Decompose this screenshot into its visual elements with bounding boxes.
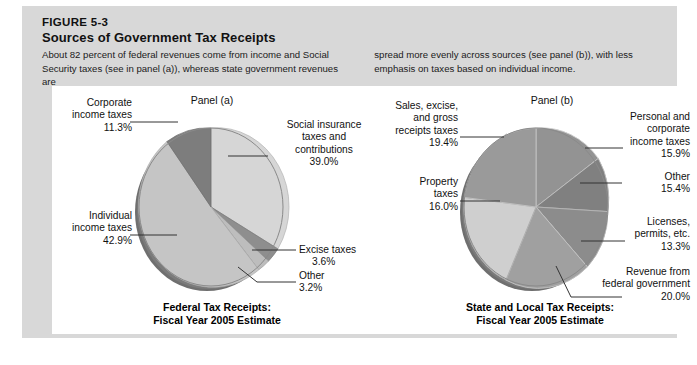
- panel-b-label-property: Property taxes 16.0%: [374, 176, 458, 213]
- intro-text-right: spread more evenly across sources (see p…: [374, 48, 667, 75]
- panel-b-other-name: Other: [608, 171, 690, 183]
- panel-b-personal-pct: 15.9%: [608, 148, 690, 160]
- panel-b-licenses-name-1: Licenses,: [608, 216, 690, 228]
- panel-b-sales-pct: 19.4%: [364, 137, 458, 149]
- panel-b-federal-name-1: Revenue from: [580, 266, 690, 278]
- panel-b-label-personal: Personal and corporate income taxes 15.9…: [608, 111, 690, 161]
- panel-b-caption-line-1: State and Local Tax Receipts:: [420, 301, 660, 314]
- panel-b-sales-name-2: and gross: [364, 112, 458, 124]
- figure-container: FIGURE 5-3 Sources of Government Tax Rec…: [22, 6, 677, 338]
- panel-b-property-name-1: Property: [374, 176, 458, 188]
- figure-title: Sources of Government Tax Receipts: [42, 30, 662, 46]
- panel-b-caption: State and Local Tax Receipts: Fiscal Yea…: [420, 301, 660, 327]
- figure-header: FIGURE 5-3 Sources of Government Tax Rec…: [42, 16, 662, 46]
- panel-b-property-pct: 16.0%: [374, 201, 458, 213]
- panel-b-pie-slices: [464, 128, 609, 289]
- panel-b-licenses-name-2: permits, etc.: [608, 228, 690, 240]
- panel-b-other-pct: 15.4%: [608, 183, 690, 195]
- panel-b-licenses-pct: 13.3%: [608, 241, 690, 253]
- panel-b-personal-name-3: income taxes: [608, 136, 690, 148]
- intro-text-left: About 82 percent of federal revenues com…: [42, 48, 352, 89]
- panel-b-sales-name-1: Sales, excise,: [364, 100, 458, 112]
- panel-b-label-other: Other 15.4%: [608, 171, 690, 196]
- panel-b-sales-name-3: receipts taxes: [364, 125, 458, 137]
- charts-area: Panel (a): [52, 86, 691, 334]
- panel-b-property-name-2: taxes: [374, 188, 458, 200]
- panel-b-label-federal: Revenue from federal government 20.0%: [580, 266, 690, 303]
- panel-b-personal-name-2: corporate: [608, 123, 690, 135]
- panel-b-label-licenses: Licenses, permits, etc. 13.3%: [608, 216, 690, 253]
- panel-b-caption-line-2: Fiscal Year 2005 Estimate: [420, 314, 660, 327]
- figure-number: FIGURE 5-3: [42, 16, 662, 29]
- panel-b-label-sales: Sales, excise, and gross receipts taxes …: [364, 100, 458, 150]
- panel-b-federal-name-2: federal government: [580, 278, 690, 290]
- panel-b-personal-name-1: Personal and: [608, 111, 690, 123]
